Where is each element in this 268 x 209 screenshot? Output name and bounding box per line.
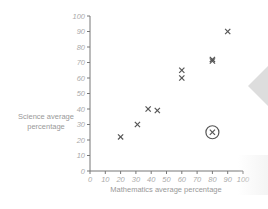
outlier-marker <box>206 126 219 139</box>
data-point-x-marker <box>146 106 151 111</box>
y-tick-label: 40 <box>77 105 86 114</box>
x-tick-label: 80 <box>208 175 217 184</box>
data-point-x-marker <box>225 29 230 34</box>
x-tick-label: 50 <box>162 175 171 184</box>
data-point-x-marker <box>155 108 160 113</box>
outlier-x-marker <box>210 130 215 135</box>
x-tick-label: 90 <box>224 175 233 184</box>
data-point-x-marker <box>179 75 184 80</box>
y-tick-label: 20 <box>76 136 86 145</box>
x-tick-label: 20 <box>115 175 125 184</box>
y-axis-label-line2: percentage <box>27 122 65 131</box>
x-tick-label: 30 <box>132 175 141 184</box>
side-panel-arrow-icon <box>248 66 268 106</box>
data-point-x-marker <box>118 134 123 139</box>
data-point-x-marker <box>179 68 184 73</box>
y-tick-label: 0 <box>81 167 86 176</box>
x-tick-label: 40 <box>147 175 156 184</box>
y-axis-label-line1: Science average <box>18 112 74 121</box>
side-panel-edge <box>238 155 268 195</box>
chart-canvas: 0102030405060708090100 01020304050607080… <box>0 0 268 209</box>
x-tick-label: 10 <box>101 175 110 184</box>
data-points <box>118 29 230 140</box>
axes <box>90 16 243 171</box>
y-tick-label: 10 <box>77 151 86 160</box>
y-tick-label: 90 <box>77 27 86 36</box>
data-point-x-marker <box>135 122 140 127</box>
x-tick-label: 70 <box>193 175 202 184</box>
y-tick-label: 100 <box>72 12 85 21</box>
y-tick-label: 30 <box>77 120 86 129</box>
x-axis-label: Mathematics average percentage <box>110 185 221 194</box>
x-tick-label: 0 <box>88 175 93 184</box>
x-tick-label: 60 <box>178 175 187 184</box>
y-tick-label: 80 <box>77 43 86 52</box>
y-tick-label: 50 <box>77 89 86 98</box>
y-tick-label: 70 <box>77 58 86 67</box>
y-tick-label: 60 <box>77 74 86 83</box>
scatter-chart: 0102030405060708090100 01020304050607080… <box>0 0 268 209</box>
x-axis-ticks: 0102030405060708090100 <box>88 171 250 184</box>
y-axis-ticks: 0102030405060708090100 <box>72 12 90 176</box>
